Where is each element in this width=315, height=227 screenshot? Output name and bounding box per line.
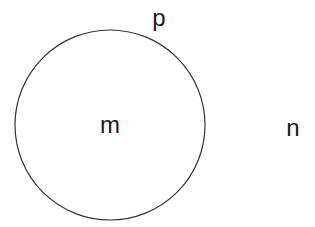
label-n: n xyxy=(286,114,299,141)
label-m: m xyxy=(100,111,120,138)
diagram-canvas: p m n xyxy=(0,0,315,227)
label-p: p xyxy=(152,4,165,31)
